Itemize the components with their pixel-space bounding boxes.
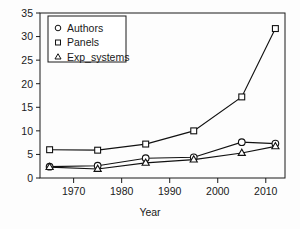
x-axis-title: Year (139, 206, 161, 218)
legend-label-authors: Authors (67, 22, 103, 34)
x-tick-label-1990: 1990 (158, 185, 182, 197)
y-tick-label-35: 35 (21, 7, 33, 19)
x-tick-label-1970: 1970 (62, 185, 86, 197)
data-point-panels-2012 (272, 26, 278, 32)
data-point-authors-2005 (238, 139, 245, 146)
y-tick-label-30: 30 (21, 30, 33, 42)
line-chart: 05101520253035 19701980199020002010 Year… (0, 0, 300, 229)
y-tick-label-25: 25 (21, 54, 33, 66)
y-tick-label-5: 5 (27, 148, 33, 160)
chart-legend: AuthorsPanelsExp_systems (48, 16, 129, 63)
y-tick-label-15: 15 (21, 101, 33, 113)
y-tick-label-20: 20 (21, 78, 33, 90)
x-tick-label-2000: 2000 (206, 185, 230, 197)
legend-marker-panels (56, 40, 61, 45)
legend-label-panels: Panels (67, 36, 99, 48)
chart-container: 05101520253035 19701980199020002010 Year… (0, 0, 300, 229)
series-markers-exp_systems (46, 143, 279, 172)
y-axis-tick-labels: 05101520253035 (21, 7, 33, 184)
data-point-panels-1995 (191, 128, 197, 134)
y-tick-label-0: 0 (27, 172, 33, 184)
data-point-panels-2005 (239, 94, 245, 100)
y-axis-ticks (36, 13, 40, 178)
data-point-panels-1975 (95, 147, 101, 153)
y-tick-label-10: 10 (21, 125, 33, 137)
legend-marker-authors (55, 25, 61, 31)
x-tick-label-1980: 1980 (110, 185, 134, 197)
legend-label-exp_systems: Exp_systems (67, 51, 129, 63)
data-point-panels-1985 (143, 141, 149, 147)
data-point-panels-1965 (47, 147, 53, 153)
x-tick-label-2010: 2010 (254, 185, 278, 197)
x-axis-tick-labels: 19701980199020002010 (62, 185, 278, 197)
x-axis-ticks (74, 178, 266, 183)
